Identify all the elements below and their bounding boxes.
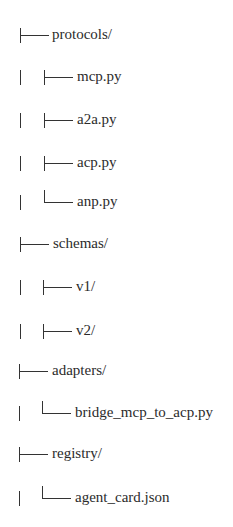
tree-pipe-icon — [20, 156, 21, 171]
tree-item-anp-py[interactable]: anp.py — [0, 192, 233, 212]
tree-branch-line — [19, 371, 48, 372]
tree-branch-line — [19, 454, 48, 455]
tree-item-v1[interactable]: v1/ — [0, 277, 233, 297]
file-label: bridge_mcp_to_acp.py — [75, 403, 213, 421]
folder-label: v2/ — [76, 321, 95, 339]
tree-branch-line — [44, 163, 73, 164]
file-label: agent_card.json — [75, 488, 170, 506]
tree-branch-line — [42, 413, 71, 414]
tree-item-a2a-py[interactable]: a2a.py — [0, 110, 233, 130]
tree-pipe-icon — [20, 280, 21, 295]
tree-item-registry[interactable]: registry/ — [0, 444, 233, 464]
folder-label: v1/ — [76, 277, 95, 295]
tree-branch-line — [42, 498, 71, 499]
tree-item-agent-card-json[interactable]: agent_card.json — [0, 488, 233, 508]
folder-label: protocols/ — [52, 25, 112, 43]
tree-pipe-icon — [19, 491, 20, 506]
tree-branch-line — [20, 35, 49, 36]
tree-pipe-icon — [20, 70, 21, 85]
file-tree: protocols/ mcp.py a2a.py acp.py anp.py s… — [0, 0, 233, 527]
file-label: a2a.py — [77, 110, 117, 128]
tree-item-schemas[interactable]: schemas/ — [0, 234, 233, 254]
tree-pipe-icon — [20, 324, 21, 339]
file-label: anp.py — [77, 192, 117, 210]
tree-pipe-icon — [20, 195, 21, 210]
tree-branch-line — [44, 77, 73, 78]
tree-item-adapters[interactable]: adapters/ — [0, 361, 233, 381]
tree-item-mcp-py[interactable]: mcp.py — [0, 67, 233, 87]
tree-branch-line — [44, 202, 73, 203]
file-label: acp.py — [77, 153, 117, 171]
tree-item-protocols[interactable]: protocols/ — [0, 25, 233, 45]
tree-item-v2[interactable]: v2/ — [0, 321, 233, 341]
tree-branch-line — [44, 120, 73, 121]
tree-branch-line — [20, 244, 49, 245]
tree-item-bridge-mcp-to-acp-py[interactable]: bridge_mcp_to_acp.py — [0, 403, 233, 423]
tree-item-acp-py[interactable]: acp.py — [0, 153, 233, 173]
folder-label: adapters/ — [52, 361, 106, 379]
tree-pipe-icon — [20, 113, 21, 128]
tree-pipe-icon — [19, 406, 20, 421]
folder-label: schemas/ — [53, 234, 108, 252]
tree-branch-line — [43, 287, 72, 288]
file-label: mcp.py — [77, 67, 122, 85]
folder-label: registry/ — [52, 444, 102, 462]
tree-branch-line — [43, 331, 72, 332]
